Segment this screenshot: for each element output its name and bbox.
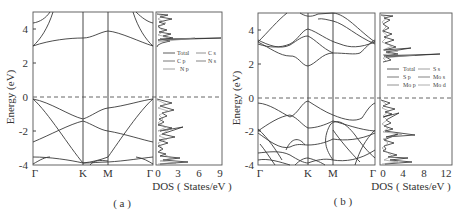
kpoint-k-a: K [79, 167, 87, 179]
panel-a: 4 2 0 -2 -4 Energy (eV) Γ K M Γ Total C [4, 12, 232, 210]
xtick-b-8: 8 [421, 167, 427, 179]
kpath-a: Γ K M Γ [32, 167, 153, 179]
kpoint-m-a: M [103, 167, 113, 179]
ytick-a-m4: -4 [19, 159, 29, 171]
kpoint-k-b: K [304, 167, 312, 179]
kpoint-gamma-end-a: Γ [147, 167, 153, 179]
dos-x-axis-a: 0 3 6 9 DOS ( States/eV ) [152, 167, 232, 193]
dos-curves-b [381, 15, 440, 164]
figure: 4 2 0 -2 -4 Energy (eV) Γ K M Γ Total C [0, 0, 462, 213]
legend-a-ns: N s [208, 58, 217, 64]
kpoint-gamma-b: Γ [257, 167, 263, 179]
kpath-b: Γ K M Γ [257, 167, 376, 179]
xlabel-dos-a: DOS ( States/eV ) [152, 180, 232, 193]
ytick-a-4: 4 [23, 23, 29, 35]
kpoint-m-b: M [328, 167, 338, 179]
legend-b-total: Total [403, 66, 416, 72]
ytick-a-0: 0 [23, 91, 29, 103]
ylabel-a: Energy (eV) [4, 69, 17, 124]
ytick-b-2: 2 [249, 58, 255, 70]
ylabel-b: Energy (eV) [230, 70, 243, 125]
dos-x-axis-b: 0 4 8 12 DOS ( States/eV ) [371, 167, 451, 193]
legend-a-cs: C s [208, 50, 217, 56]
xtick-a-0: 0 [155, 167, 161, 179]
caption-a: ( a ) [113, 197, 131, 210]
ytick-b-4: 4 [249, 24, 255, 36]
legend-b-mod: Mo d [433, 82, 446, 88]
band-frame-a [33, 12, 153, 165]
legend-b: Total S s S p Mo s Mo p Mo d [387, 66, 446, 88]
xtick-b-0: 0 [380, 167, 386, 179]
bands-b [258, 13, 375, 165]
bands-a [33, 12, 153, 165]
ytick-a-2: 2 [23, 57, 29, 69]
xtick-b-12: 12 [441, 167, 452, 179]
xlabel-dos-b: DOS ( States/eV ) [371, 180, 451, 193]
xtick-a-3: 3 [175, 167, 181, 179]
xtick-b-4: 4 [400, 167, 406, 179]
ytick-b-m4: -4 [245, 159, 255, 171]
y-axis-b: 4 2 0 -2 -4 Energy (eV) [230, 24, 261, 171]
legend-b-ss: S s [433, 66, 441, 72]
xtick-a-9: 9 [217, 167, 223, 179]
ytick-b-0: 0 [249, 92, 255, 104]
legend-a-total: Total [177, 50, 190, 56]
xtick-a-6: 6 [196, 167, 202, 179]
legend-a: Total C s C p N s N p [163, 50, 217, 72]
kpoint-gamma-end-b: Γ [370, 167, 376, 179]
panel-b: 4 2 0 -2 -4 Energy (eV) Γ K M Γ Total S … [230, 13, 452, 208]
legend-a-np: N p [180, 66, 189, 72]
legend-a-cp: C p [177, 58, 186, 64]
legend-b-sp: S p [403, 74, 411, 80]
ytick-b-m2: -2 [245, 125, 254, 137]
band-frame-b [258, 13, 375, 165]
caption-b: ( b ) [334, 195, 353, 208]
dos-curves-a [157, 14, 221, 164]
y-axis-a: 4 2 0 -2 -4 Energy (eV) [4, 23, 36, 171]
legend-b-mos: Mo s [433, 74, 446, 80]
ytick-a-m2: -2 [19, 125, 28, 137]
kpoint-gamma-a: Γ [32, 167, 38, 179]
legend-b-mop: Mo p [403, 82, 416, 88]
